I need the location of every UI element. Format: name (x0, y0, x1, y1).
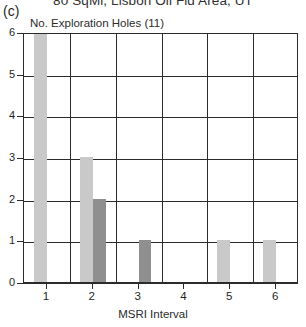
gridline-vertical (253, 34, 254, 282)
gridline-horizontal (24, 117, 297, 118)
x-tick-mark (275, 283, 276, 289)
x-tick-label: 5 (219, 290, 239, 302)
chart-subtitle: No. Exploration Holes (11) (30, 17, 164, 29)
x-tick-mark (92, 283, 93, 289)
gridline-vertical (70, 34, 71, 282)
chart-title: 80 SqMi, Lisbon Oil Fld Area, UT (0, 0, 306, 8)
plot-inner (24, 34, 297, 282)
x-tick-label: 6 (265, 290, 285, 302)
y-tick-label: 1 (0, 234, 15, 246)
bar (93, 199, 106, 282)
gridline-vertical (207, 34, 208, 282)
gridline-horizontal (24, 242, 297, 243)
bar (139, 240, 152, 282)
y-tick-mark (17, 200, 23, 201)
x-tick-mark (229, 283, 230, 289)
y-tick-label: 4 (0, 109, 15, 121)
y-tick-mark (17, 75, 23, 76)
x-tick-mark (46, 283, 47, 289)
x-tick-mark (138, 283, 139, 289)
x-tick-label: 1 (36, 290, 56, 302)
plot-area (23, 33, 298, 283)
y-tick-mark (17, 33, 23, 34)
bar (263, 240, 276, 282)
bar (80, 157, 93, 282)
y-tick-label: 6 (0, 26, 15, 38)
gridline-horizontal (24, 201, 297, 202)
gridline-horizontal (24, 76, 297, 77)
y-tick-mark (17, 116, 23, 117)
x-tick-label: 4 (173, 290, 193, 302)
figure: 80 SqMi, Lisbon Oil Fld Area, UT (c) No.… (0, 0, 306, 327)
bar (217, 240, 230, 282)
x-tick-label: 3 (128, 290, 148, 302)
y-tick-label: 5 (0, 68, 15, 80)
gridline-vertical (116, 34, 117, 282)
panel-label: (c) (3, 3, 19, 19)
x-axis-spine (23, 283, 298, 284)
x-tick-mark (183, 283, 184, 289)
y-tick-mark (17, 283, 23, 284)
y-tick-mark (17, 158, 23, 159)
gridline-vertical (162, 34, 163, 282)
y-tick-label: 2 (0, 193, 15, 205)
y-tick-label: 3 (0, 151, 15, 163)
y-tick-mark (17, 241, 23, 242)
y-tick-label: 0 (0, 276, 15, 288)
x-tick-label: 2 (82, 290, 102, 302)
y-axis-spine (23, 33, 24, 283)
x-axis-title: MSRI Interval (0, 308, 306, 320)
bar (34, 34, 47, 282)
gridline-horizontal (24, 159, 297, 160)
